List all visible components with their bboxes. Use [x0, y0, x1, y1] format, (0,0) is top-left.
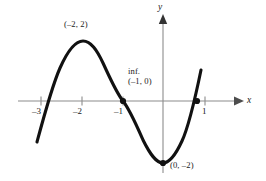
annotation-inflection: inf. (–1, 0)	[128, 66, 152, 86]
y-axis-label: y	[158, 2, 162, 12]
x-axis-label: x	[247, 95, 251, 105]
x-tick-label-neg3: –3	[32, 106, 41, 116]
function-curve	[37, 41, 201, 163]
coordinate-plane	[0, 0, 266, 181]
x-tick-label-pos1: 1	[202, 106, 207, 116]
x-tick-label-neg2: –2	[73, 106, 82, 116]
annotation-local-minimum: (0, –2)	[170, 160, 194, 170]
annotation-inflection-line2: (–1, 0)	[128, 76, 152, 86]
point-marker-inflection	[120, 98, 126, 104]
graph-figure: x y –3 –2 –1 1 (–2, 2) inf. (–1, 0) (0, …	[0, 0, 266, 181]
y-axis-arrowhead	[159, 14, 167, 24]
x-tick-label-neg1: –1	[114, 106, 123, 116]
point-marker-minimum	[160, 160, 166, 166]
x-axis-arrowhead	[234, 97, 244, 106]
annotation-inflection-line1: inf.	[128, 66, 152, 76]
annotation-local-maximum: (–2, 2)	[64, 19, 88, 29]
point-marker-x-intercept	[194, 98, 200, 104]
